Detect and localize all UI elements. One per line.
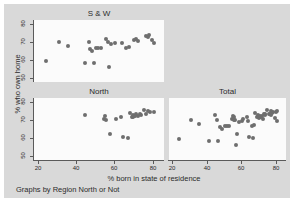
x-axis-tick: [38, 161, 39, 164]
x-axis-tick-label: 60: [107, 165, 121, 172]
scatter-point: [103, 114, 107, 118]
scatter-point: [234, 143, 238, 147]
scatter-point: [66, 44, 70, 48]
scatter-point: [246, 119, 250, 123]
scatter-point: [114, 117, 118, 121]
y-axis-tick: [30, 60, 33, 61]
scatter-point: [44, 59, 48, 63]
axis-line-vertical: [33, 98, 34, 160]
scatter-point: [275, 109, 279, 113]
x-axis-tick: [153, 161, 154, 164]
x-axis-tick: [241, 161, 242, 164]
y-axis-tick: [30, 78, 33, 79]
y-axis-tick: [30, 102, 33, 103]
axis-line-vertical: [33, 20, 34, 82]
graph-region: S & W North Total 5060708050607080204060…: [4, 4, 290, 198]
panel-title-north: North: [34, 87, 164, 97]
y-axis-tick: [30, 42, 33, 43]
y-axis-tick: [30, 120, 33, 121]
scatter-point: [120, 41, 124, 45]
x-axis-tick: [114, 161, 115, 164]
panel-title-s-and-w: S & W: [34, 9, 164, 19]
x-axis-title: % born in state of residence: [44, 174, 264, 183]
x-axis-tick-label: 20: [165, 165, 179, 172]
x-axis-tick-label: 80: [146, 165, 160, 172]
scatter-point: [177, 137, 181, 141]
scatter-point: [127, 45, 131, 49]
plot-panel-s-and-w: [34, 20, 164, 82]
panel-title-total: Total: [169, 87, 286, 97]
scatter-point: [235, 132, 239, 136]
scatter-point: [213, 113, 217, 117]
plot-panel-empty: [169, 20, 286, 82]
scatter-point: [119, 115, 123, 119]
scatter-point: [83, 113, 87, 117]
scatter-point: [152, 110, 156, 114]
x-axis-tick-label: 40: [200, 165, 214, 172]
x-axis-tick-label: 60: [234, 165, 248, 172]
scatter-point: [215, 118, 219, 122]
x-axis-tick: [276, 161, 277, 164]
scatter-point: [136, 39, 140, 43]
y-axis-tick: [30, 156, 33, 157]
x-axis-tick-label: 40: [69, 165, 83, 172]
scatter-point: [197, 122, 201, 126]
scatter-point: [108, 132, 112, 136]
scatter-point: [87, 40, 91, 44]
scatter-point: [147, 33, 151, 37]
figure-canvas: S & W North Total 5060708050607080204060…: [0, 0, 294, 202]
y-axis-tick: [30, 138, 33, 139]
y-axis-tick: [30, 24, 33, 25]
x-axis-tick-label: 80: [269, 165, 283, 172]
scatter-point: [261, 117, 265, 121]
axis-line-horizontal: [33, 160, 164, 161]
scatter-point: [83, 61, 87, 65]
y-axis-title: % who own home: [13, 14, 22, 154]
graph-note: Graphs by Region North or Not: [16, 185, 119, 194]
x-axis-tick: [76, 161, 77, 164]
scatter-point: [107, 65, 111, 69]
scatter-point: [252, 123, 256, 127]
x-axis-tick-label: 20: [31, 165, 45, 172]
scatter-point: [216, 139, 220, 143]
plot-panel-total: [169, 98, 286, 160]
scatter-point: [92, 61, 96, 65]
x-axis-tick: [172, 161, 173, 164]
scatter-point: [121, 135, 125, 139]
axis-line-horizontal: [168, 160, 286, 161]
x-axis-tick: [207, 161, 208, 164]
